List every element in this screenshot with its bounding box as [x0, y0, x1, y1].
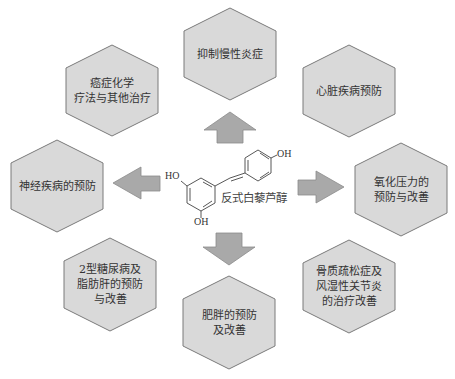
hexagon-obesity	[183, 276, 275, 369]
oh-bottom-group: OH	[194, 216, 208, 227]
hexagon-oxidative	[355, 143, 447, 236]
hexagon-heart	[303, 45, 395, 137]
arrow-right	[298, 171, 344, 203]
hexagon-anti-inflammation	[184, 8, 276, 100]
arrow-up	[204, 112, 256, 143]
resveratrol-structure	[181, 150, 277, 218]
oh-right-group: OH	[277, 148, 291, 159]
hexagon-bone	[303, 240, 395, 333]
ho-left-group: HO	[165, 170, 179, 181]
hexagon-neuro	[11, 140, 103, 232]
hexagon-diabetes	[64, 238, 156, 331]
arrow-down	[203, 233, 255, 265]
hexagon-cancer	[66, 45, 158, 136]
resveratrol-benefits-diagram: 抑制慢性炎症 癌症化学 疗法与其他治疗 心脏疾病预防 神经疾病的预防 氧化压力的…	[0, 0, 455, 379]
compound-name: 反式白藜芦醇	[221, 189, 287, 205]
arrow-left	[113, 167, 160, 199]
